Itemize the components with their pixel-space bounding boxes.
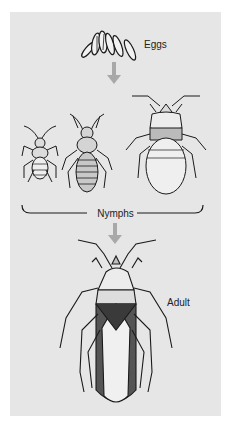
adult-illustration (60, 240, 172, 402)
life-cycle-illustration (0, 0, 231, 431)
nymph-large-illustration (126, 96, 206, 194)
eggs-illustration (80, 31, 138, 62)
nymph-small-illustration (22, 126, 58, 182)
nymphs-bracket (22, 205, 203, 213)
eggs-label: Eggs (144, 40, 167, 50)
arrow-nymphs-to-adult-icon (108, 223, 122, 244)
arrow-eggs-to-nymphs-icon (107, 62, 121, 84)
nymph-medium-illustration (62, 114, 112, 192)
adult-label: Adult (167, 298, 190, 308)
